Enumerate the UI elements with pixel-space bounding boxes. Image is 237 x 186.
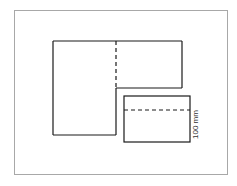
top-right-panel [116,41,182,88]
pattern-diagram [0,0,237,186]
bottom-right-panel [124,96,190,142]
left-panel [53,41,116,135]
dimension-label: 100 mm [191,110,200,139]
